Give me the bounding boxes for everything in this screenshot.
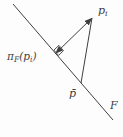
label-p-bar: p̄ bbox=[69, 88, 76, 99]
label-arg-base: p bbox=[23, 50, 30, 62]
label-line-F: F bbox=[110, 100, 118, 111]
label-projection-pi-F: πF(pi) bbox=[7, 51, 36, 64]
label-pi-symbol: π bbox=[7, 50, 14, 62]
label-p-i: pi bbox=[98, 5, 108, 18]
label-close-paren: ) bbox=[32, 50, 36, 62]
projection-diagram: pi πF(pi) p̄ F bbox=[0, 0, 123, 137]
label-p-i-base: p bbox=[98, 4, 105, 17]
label-line-F-text: F bbox=[110, 99, 118, 112]
label-p-i-subscript: i bbox=[105, 9, 108, 18]
label-p-bar-text: p̄ bbox=[69, 87, 76, 100]
diagram-canvas bbox=[0, 0, 123, 137]
